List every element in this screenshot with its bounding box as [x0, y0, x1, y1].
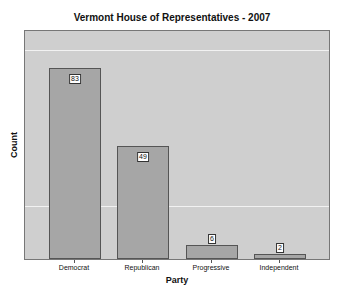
data-label: 49	[137, 152, 149, 162]
bar-progressive	[186, 245, 238, 259]
x-axis-label: Party	[24, 275, 330, 285]
plot-area: 834962	[24, 30, 330, 260]
data-label: 6	[208, 234, 216, 244]
x-tick-label: Progressive	[193, 264, 230, 271]
x-tick-mark	[142, 260, 143, 263]
data-label: 2	[276, 243, 284, 253]
gridline	[25, 50, 329, 51]
bar-republican	[117, 146, 169, 259]
data-label: 83	[69, 74, 81, 84]
x-tick-label: Independent	[260, 264, 299, 271]
x-tick-mark	[279, 260, 280, 263]
chart-title: Vermont House of Representatives - 2007	[0, 12, 344, 23]
x-tick-label: Republican	[124, 264, 159, 271]
bar-independent	[254, 254, 306, 259]
y-axis-label: Count	[9, 132, 19, 158]
x-tick-label: Democrat	[59, 264, 89, 271]
x-tick-mark	[74, 260, 75, 263]
x-tick-mark	[211, 260, 212, 263]
bar-democrat	[49, 68, 101, 259]
